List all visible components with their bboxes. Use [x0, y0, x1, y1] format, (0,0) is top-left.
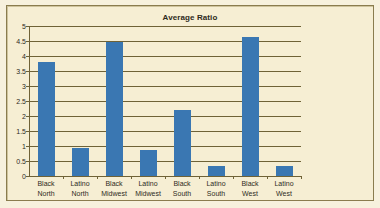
x-axis-label-line: Black — [165, 179, 199, 189]
y-axis-tick-mark — [26, 56, 29, 57]
gridline — [29, 116, 301, 117]
bar — [174, 110, 191, 176]
x-axis-label-line: Black — [29, 179, 63, 189]
x-axis-label: BlackMidwest — [97, 179, 131, 198]
y-axis-tick-mark — [26, 161, 29, 162]
bar — [242, 37, 259, 177]
chart-frame: Average Ratio 00.511.522.533.544.55 Blac… — [6, 5, 374, 201]
x-axis-label: BlackSouth — [165, 179, 199, 198]
gridline — [29, 101, 301, 102]
x-axis-label: LatinoMidwest — [131, 179, 165, 198]
y-axis-tick-label: 4.5 — [16, 38, 26, 45]
y-axis-tick-mark — [26, 116, 29, 117]
x-axis-label-line: Latino — [199, 179, 233, 189]
x-axis-tick-mark — [301, 176, 302, 179]
y-axis-tick-mark — [26, 71, 29, 72]
x-axis-label-line: Latino — [63, 179, 97, 189]
x-axis-label-line: Black — [233, 179, 267, 189]
y-axis-tick-label: 5 — [22, 23, 26, 30]
y-axis-tick-mark — [26, 146, 29, 147]
x-axis-label-line: South — [199, 189, 233, 199]
gridline — [29, 161, 301, 162]
gridline — [29, 131, 301, 132]
y-axis-tick-mark — [26, 131, 29, 132]
gridline — [29, 71, 301, 72]
y-axis-tick-label: 0.5 — [16, 158, 26, 165]
plot-area: 00.511.522.533.544.55 — [29, 26, 301, 176]
y-axis-tick-label: 4 — [22, 53, 26, 60]
plot-inner: 00.511.522.533.544.55 — [29, 26, 301, 176]
x-axis-label-line: Midwest — [97, 189, 131, 199]
bar — [72, 148, 89, 177]
bar — [276, 166, 293, 176]
y-axis-tick-label: 1 — [22, 143, 26, 150]
x-axis-label-line: Midwest — [131, 189, 165, 199]
bar — [38, 62, 55, 176]
gridline — [29, 56, 301, 57]
gridline — [29, 26, 301, 27]
x-axis-label-line: Latino — [131, 179, 165, 189]
bar — [140, 150, 157, 176]
y-axis-tick-label: 3 — [22, 83, 26, 90]
x-axis-label-line: West — [233, 189, 267, 199]
x-axis-label-line: West — [267, 189, 301, 199]
y-axis-tick-mark — [26, 176, 29, 177]
y-axis-tick-label: 0 — [22, 173, 26, 180]
y-axis-tick-label: 3.5 — [16, 68, 26, 75]
x-axis-label: LatinoSouth — [199, 179, 233, 198]
legend: Average Ratio — [303, 92, 380, 110]
y-axis-tick-mark — [26, 41, 29, 42]
bar — [106, 42, 123, 176]
x-axis-label: LatinoNorth — [63, 179, 97, 198]
gridline — [29, 86, 301, 87]
x-axis-label: BlackWest — [233, 179, 267, 198]
y-axis-tick-mark — [26, 86, 29, 87]
x-axis-label-line: South — [165, 189, 199, 199]
x-axis-label: BlackNorth — [29, 179, 63, 198]
y-axis-tick-label: 2.5 — [16, 98, 26, 105]
bar — [208, 166, 225, 177]
y-axis-tick-mark — [26, 26, 29, 27]
y-axis-tick-mark — [26, 101, 29, 102]
x-axis-labels: BlackNorthLatinoNorthBlackMidwestLatinoM… — [29, 179, 301, 203]
x-axis-label-line: North — [29, 189, 63, 199]
y-axis-tick-label: 1.5 — [16, 128, 26, 135]
chart-title: Average Ratio — [7, 13, 373, 22]
x-axis-label-line: Latino — [267, 179, 301, 189]
x-axis-label-line: Black — [97, 179, 131, 189]
x-axis-label-line: North — [63, 189, 97, 199]
x-axis-label: LatinoWest — [267, 179, 301, 198]
gridline — [29, 41, 301, 42]
y-axis-tick-label: 2 — [22, 113, 26, 120]
gridline — [29, 146, 301, 147]
